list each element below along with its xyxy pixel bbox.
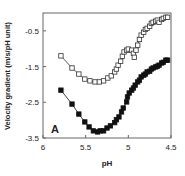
- open-square-marker: [137, 37, 141, 41]
- open-square-marker: [77, 72, 81, 76]
- filled-square-marker: [124, 100, 128, 104]
- panel-label: A: [51, 123, 59, 135]
- filled-square-marker: [70, 102, 74, 106]
- open-square-marker: [93, 80, 97, 84]
- data-series: [59, 15, 170, 134]
- filled-square-marker: [59, 88, 63, 92]
- open-squares-series: [59, 15, 170, 84]
- filled-square-marker: [121, 106, 125, 110]
- open-square-marker: [101, 79, 105, 83]
- open-square-marker: [118, 59, 122, 63]
- filled-square-marker: [87, 125, 91, 129]
- y-tick-label: -3.5: [25, 134, 39, 143]
- filled-square-marker: [83, 120, 87, 124]
- open-square-marker: [88, 79, 92, 83]
- x-axis-label: pH: [102, 159, 113, 168]
- velocity-gradient-chart: 65.554.5 -0.5-1.5-2.5-3.5 pH Velocity gr…: [0, 0, 185, 176]
- y-tick-label: -2.5: [25, 98, 39, 107]
- open-square-marker: [59, 54, 63, 58]
- open-square-marker: [165, 15, 169, 19]
- x-tick-label: 4.5: [165, 143, 177, 152]
- y-tick-label: -1.5: [25, 63, 39, 72]
- open-square-marker: [134, 48, 138, 52]
- open-square-marker: [120, 54, 124, 58]
- filled-square-marker: [77, 112, 81, 116]
- filled-square-marker: [91, 129, 95, 133]
- open-square-marker: [97, 80, 101, 84]
- open-square-marker: [83, 77, 87, 81]
- x-tick-label: 5.5: [80, 143, 92, 152]
- y-axis-label: Velocity gradient (m/s/pH unit): [3, 22, 12, 130]
- x-tick-label: 5: [126, 143, 131, 152]
- open-square-marker: [136, 43, 140, 47]
- open-square-marker: [132, 55, 136, 59]
- filled-square-marker: [108, 124, 112, 128]
- filled-square-marker: [117, 115, 121, 119]
- filled-square-marker: [165, 58, 169, 62]
- y-tick-label: -0.5: [25, 27, 39, 36]
- open-square-marker: [70, 66, 74, 70]
- x-tick-label: 6: [41, 143, 46, 152]
